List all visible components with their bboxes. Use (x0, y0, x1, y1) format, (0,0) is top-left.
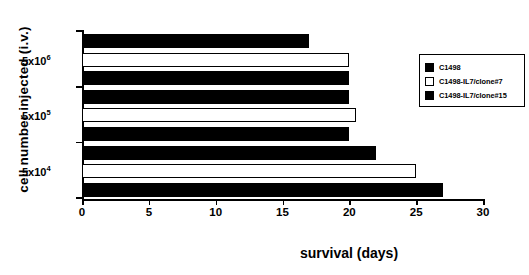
bar (82, 71, 349, 85)
y-tick-label: 5x105 (22, 109, 51, 123)
legend-item: C1498 (425, 63, 521, 72)
legend-label: C1498-IL7/clone#7 (439, 77, 503, 86)
x-tick (416, 199, 418, 205)
x-tick-label: 0 (79, 206, 85, 218)
x-tick (149, 199, 151, 205)
legend-item: C1498-IL7/clone#7 (425, 77, 521, 86)
legend-label: C1498 (439, 63, 461, 72)
x-axis-title: survival (days) (300, 245, 398, 261)
bar (82, 164, 416, 178)
x-tick (82, 199, 84, 205)
y-tick-label: 5x106 (22, 53, 51, 67)
legend-swatch-icon (425, 77, 434, 86)
x-tick (349, 199, 351, 205)
legend: C1498C1498-IL7/clone#7C1498-IL7/clone#15 (419, 54, 525, 107)
legend-swatch-icon (425, 91, 434, 100)
y-tick-label: 5x104 (22, 164, 51, 178)
x-tick-label: 20 (343, 206, 356, 218)
bar (82, 34, 309, 48)
y-tick (76, 30, 83, 32)
legend-item: C1498-IL7/clone#15 (425, 91, 521, 100)
x-tick-label: 15 (276, 206, 289, 218)
y-tick (76, 86, 83, 88)
y-tick (76, 142, 83, 144)
y-tick (76, 197, 83, 199)
legend-swatch-icon (425, 63, 434, 72)
x-tick-label: 25 (410, 206, 423, 218)
figure: cell number injected (i.v.) 051015202530… (0, 0, 529, 275)
x-tick-label: 10 (209, 206, 222, 218)
bar (82, 183, 443, 197)
bar (82, 108, 356, 122)
x-tick-label: 5 (146, 206, 152, 218)
bar (82, 127, 349, 141)
bar (82, 90, 349, 104)
x-tick (216, 199, 218, 205)
legend-label: C1498-IL7/clone#15 (439, 91, 507, 100)
bar (82, 146, 376, 160)
bar (82, 53, 349, 67)
x-tick (483, 199, 485, 205)
x-tick-label: 30 (477, 206, 490, 218)
x-tick (283, 199, 285, 205)
